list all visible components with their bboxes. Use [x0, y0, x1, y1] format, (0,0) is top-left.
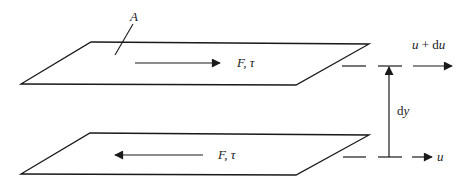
area-label: A: [130, 10, 138, 23]
bottom-plate: [21, 133, 369, 175]
bottom-velocity-label: u: [437, 150, 444, 163]
top-force-label: F, τ: [237, 56, 254, 69]
top-velocity-label: u + du: [412, 38, 445, 51]
area-leader-line: [115, 24, 133, 55]
bottom-force-label: F, τ: [218, 148, 235, 161]
dy-label: dy: [397, 104, 409, 117]
diagram-canvas: A F, τ F, τ u + du u dy: [0, 0, 467, 186]
